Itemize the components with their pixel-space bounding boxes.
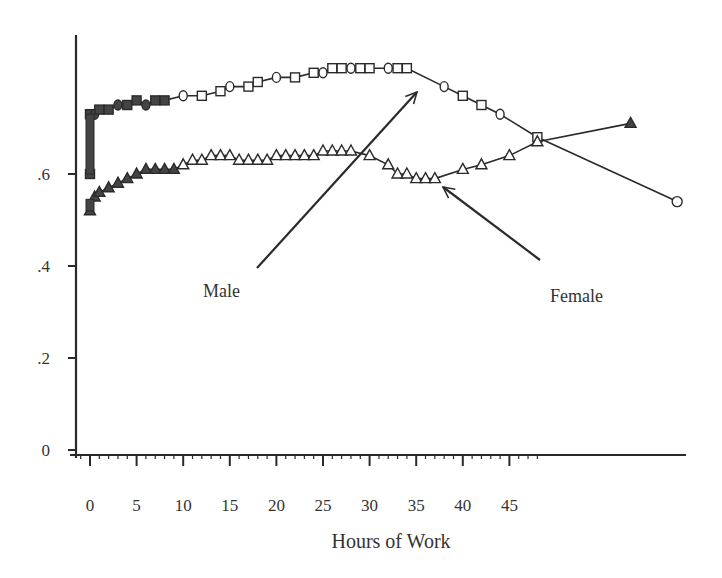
female-label: Female [550, 286, 603, 306]
x-tick-label: 45 [501, 496, 518, 515]
circle-marker [142, 100, 150, 110]
circle-marker [272, 72, 280, 82]
circle-marker [384, 63, 392, 73]
triangle-marker [224, 150, 235, 160]
square-marker [356, 64, 365, 73]
y-tick-label: .2 [37, 349, 50, 368]
x-tick-label: 5 [132, 496, 141, 515]
square-marker [402, 64, 411, 73]
circle-marker [319, 68, 327, 78]
x-axis-title: Hours of Work [331, 530, 450, 552]
triangle-marker [345, 145, 356, 155]
triangle-marker [504, 150, 515, 160]
x-tick-label: 0 [86, 496, 95, 515]
male-label: Male [203, 281, 240, 301]
square-marker [328, 64, 337, 73]
square-marker [132, 96, 141, 105]
x-axis-ticks: 051015202530354045 [81, 455, 538, 515]
square-marker [365, 64, 374, 73]
triangle-marker [625, 117, 636, 127]
triangle-marker [401, 168, 412, 178]
square-marker [160, 96, 169, 105]
square-marker [309, 68, 318, 77]
series-male [86, 63, 683, 206]
female-start-cluster [86, 199, 94, 211]
y-tick-label: .4 [37, 257, 50, 276]
x-tick-label: 20 [268, 496, 285, 515]
square-marker [123, 101, 132, 110]
x-axis: 051015202530354045 [70, 455, 686, 515]
circle-marker [347, 63, 355, 73]
circle-marker [179, 91, 187, 101]
square-marker [244, 82, 253, 91]
circle-marker [226, 82, 234, 92]
circle-marker [672, 197, 682, 207]
x-tick-label: 40 [454, 496, 471, 515]
circle-marker [114, 100, 122, 110]
male-arrow [257, 92, 417, 268]
square-marker [216, 87, 225, 96]
y-axis-ticks: 0.2.4.6 [37, 165, 76, 460]
square-marker [291, 73, 300, 82]
square-marker [458, 91, 467, 100]
series-female [85, 117, 637, 214]
square-marker [477, 101, 486, 110]
square-marker [393, 64, 402, 73]
circle-marker [440, 82, 448, 92]
x-tick-label: 25 [315, 496, 332, 515]
x-tick-label: 15 [221, 496, 238, 515]
circle-marker [496, 109, 504, 119]
square-marker [95, 105, 104, 114]
square-marker [253, 78, 262, 87]
y-tick-label: .6 [37, 165, 50, 184]
male-line [90, 68, 677, 201]
square-marker [104, 105, 113, 114]
square-marker [337, 64, 346, 73]
y-axis: 0.2.4.6 [37, 35, 76, 460]
line-chart: 0.2.4.6 051015202530354045 Hours of Work… [0, 0, 722, 578]
female-arrow [443, 187, 540, 260]
series-layer [85, 63, 683, 215]
male-start-cluster [86, 114, 94, 174]
square-marker [197, 91, 206, 100]
y-tick-label: 0 [42, 441, 51, 460]
triangle-marker [383, 159, 394, 169]
x-tick-label: 10 [175, 496, 192, 515]
x-tick-label: 35 [408, 496, 425, 515]
square-marker [151, 96, 160, 105]
x-tick-label: 30 [361, 496, 378, 515]
